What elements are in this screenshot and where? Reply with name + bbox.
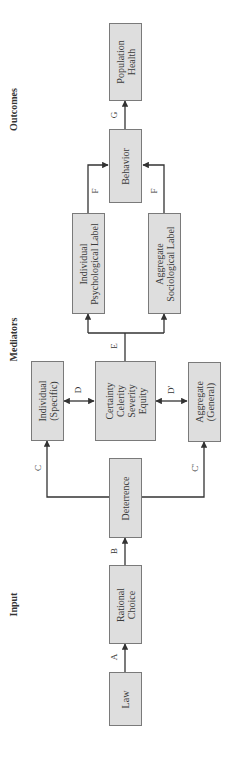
- node-certainty-celerity-severity-equity: CertaintyCeleritySeverityEquity: [95, 361, 156, 441]
- edge-label-c-prime: C': [190, 464, 200, 472]
- node-text-line: Aggregate: [194, 381, 205, 423]
- node-individual-psychological-label: IndividualPsychological Label: [72, 213, 105, 314]
- node-behavior: Behavior: [109, 129, 142, 203]
- node-text-line: (General): [205, 383, 216, 421]
- node-text-line: Law: [120, 690, 131, 708]
- edge-label-f2: F: [149, 188, 159, 193]
- node-text-line: Deterrence: [120, 476, 131, 520]
- node-text-line: Individual: [37, 380, 48, 421]
- edge-label-e: E: [109, 343, 119, 349]
- edge-label-a: A: [109, 654, 119, 661]
- node-rational-choice: RationalChoice: [109, 565, 142, 644]
- edge-label-g: G: [109, 112, 119, 119]
- node-text-line: Celerity: [115, 385, 126, 417]
- node-text-line: Population: [115, 40, 126, 83]
- node-text-line: Choice: [126, 590, 137, 618]
- node-deterrence: Deterrence: [109, 458, 142, 538]
- edge-label-f1: F: [90, 188, 100, 193]
- node-aggregate-sociological-label: AggregateSociological Label: [148, 213, 181, 314]
- node-text-line: (Specific): [48, 381, 59, 420]
- column-label-outcomes: Outcomes: [8, 85, 19, 135]
- edge-c-line: [47, 441, 109, 497]
- node-population-health: PopulationHealth: [109, 23, 142, 101]
- node-text-line: Equity: [137, 388, 148, 415]
- node-text-line: Certainty: [104, 382, 115, 419]
- node-text-line: Health: [126, 49, 137, 76]
- node-text-line: Rational: [115, 588, 126, 622]
- edge-label-b: B: [109, 548, 119, 554]
- edge-label-d-prime: D': [166, 386, 176, 394]
- node-aggregate-general: Aggregate(General): [188, 362, 221, 442]
- node-text-line: Sociological Label: [165, 226, 176, 301]
- node-text-line: Behavior: [120, 148, 131, 185]
- node-text-line: Severity: [126, 384, 137, 417]
- edge-label-c: C: [33, 465, 43, 471]
- node-text-line: Psychological Label: [89, 223, 100, 304]
- node-law: Law: [109, 672, 142, 726]
- edge-label-d: D: [73, 387, 83, 394]
- node-text-line: Aggregate: [154, 243, 165, 285]
- node-individual-specific: Individual(Specific): [31, 361, 64, 441]
- node-text-line: Individual: [78, 243, 89, 284]
- column-label-mediators: Mediators: [8, 313, 19, 367]
- column-label-input: Input: [8, 584, 19, 626]
